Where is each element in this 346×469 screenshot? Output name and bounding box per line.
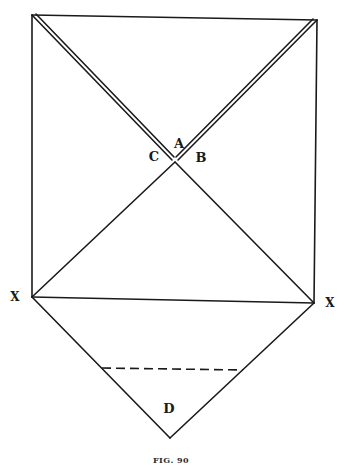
figure-caption: FIG. 90 — [153, 456, 189, 464]
bottom-left-edge — [32, 297, 170, 438]
diagonal-center-to-x-right — [175, 162, 314, 303]
label-a: A — [174, 137, 184, 150]
figure-90-diagram: A C B X X D FIG. 90 — [0, 0, 346, 469]
top-edge — [32, 15, 317, 20]
right-edge — [314, 20, 317, 303]
diagram-lines — [0, 0, 346, 469]
label-x-right: X — [325, 297, 334, 309]
diagonal-top-right-inner — [176, 19, 313, 157]
diagonal-top-left-inner — [36, 14, 174, 157]
diagonal-center-to-x-left — [32, 162, 175, 297]
x-x-line — [32, 297, 314, 303]
dashed-fold-line — [102, 368, 243, 370]
label-c: C — [149, 150, 159, 163]
diagonal-top-left-outer — [32, 15, 172, 160]
label-x-left: X — [10, 291, 19, 303]
label-b: B — [196, 151, 207, 164]
diagonal-top-right-outer — [178, 20, 317, 160]
label-d: D — [163, 402, 174, 415]
